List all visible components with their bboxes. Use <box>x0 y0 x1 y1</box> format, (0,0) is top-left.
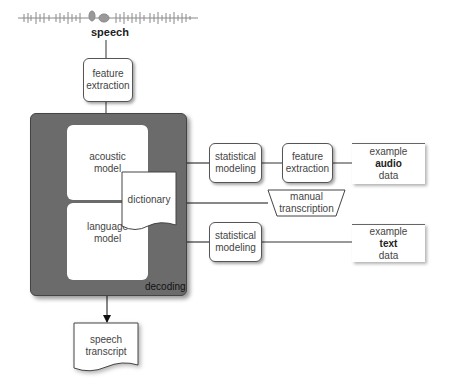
speech-transcript-shape <box>0 0 449 392</box>
node-text: transcript <box>74 346 138 358</box>
node-text: speech <box>74 334 138 346</box>
speech-transcript-node[interactable]: speech transcript <box>74 334 138 358</box>
